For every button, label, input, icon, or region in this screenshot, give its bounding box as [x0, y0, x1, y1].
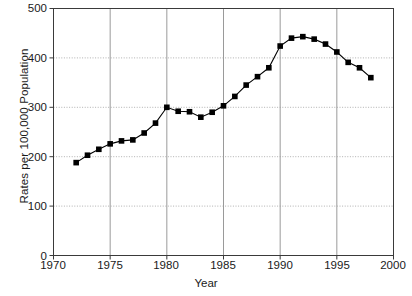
chart-figure: Rates per 100,000 Population Year 0 100 …	[0, 0, 412, 296]
plot-area	[0, 0, 412, 296]
axis-tick-marks	[50, 9, 394, 260]
